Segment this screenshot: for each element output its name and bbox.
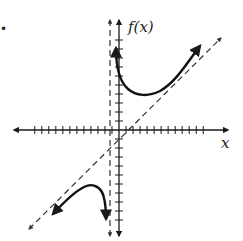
lower-branch-curve <box>53 185 106 219</box>
upper-branch-curve <box>116 46 200 95</box>
rational-function-graph: • f(x) x <box>0 0 243 241</box>
x-axis-label: x <box>221 134 230 152</box>
slant-asymptote <box>29 38 221 229</box>
y-axis-label: f(x) <box>127 18 154 36</box>
bullet-marker: • <box>0 22 7 36</box>
